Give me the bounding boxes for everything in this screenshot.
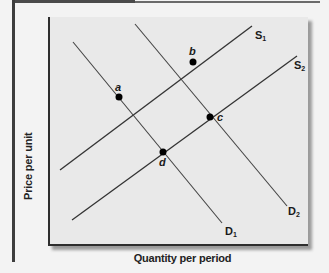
point-a-marker	[116, 94, 123, 101]
curve-label-d1: D1	[225, 225, 237, 238]
supply-curve-s1	[60, 26, 252, 170]
supply-demand-diagram: a b c d S1 S2 D1 D2	[0, 0, 329, 273]
point-d-marker	[160, 149, 167, 156]
point-c-marker	[207, 114, 214, 121]
point-d-label: d	[159, 156, 166, 168]
demand-curve-d1	[73, 42, 222, 223]
point-b-marker	[190, 59, 197, 66]
curve-label-d2: D2	[288, 205, 300, 218]
point-c-label: c	[217, 111, 223, 123]
curve-label-s1: S1	[255, 29, 266, 42]
x-axis-label: Quantity per period	[0, 252, 329, 264]
curve-label-s2: S2	[294, 59, 305, 72]
point-a-label: a	[115, 81, 121, 93]
supply-curve-s2	[72, 56, 297, 220]
y-axis-label: Price per unit	[22, 133, 34, 201]
point-b-label: b	[189, 45, 196, 57]
